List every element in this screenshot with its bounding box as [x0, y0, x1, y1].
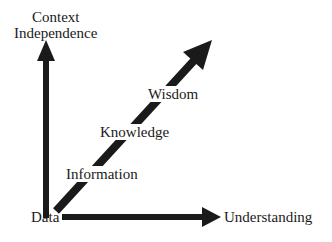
x-axis-label: Understanding [224, 209, 312, 225]
y-axis-label-line2: Independence [14, 25, 97, 41]
level-label-information: Information [65, 166, 139, 182]
level-label-wisdom: Wisdom [147, 86, 199, 102]
vertical-axis-arrow-icon [37, 40, 55, 218]
level-label-knowledge: Knowledge [99, 124, 170, 140]
dikw-diagram: Context Independence Wisdom Knowledge In… [0, 0, 332, 242]
horizontal-axis-arrow-icon [62, 207, 221, 227]
origin-label-data: Data [31, 209, 59, 225]
y-axis-label-line1: Context [32, 9, 80, 25]
